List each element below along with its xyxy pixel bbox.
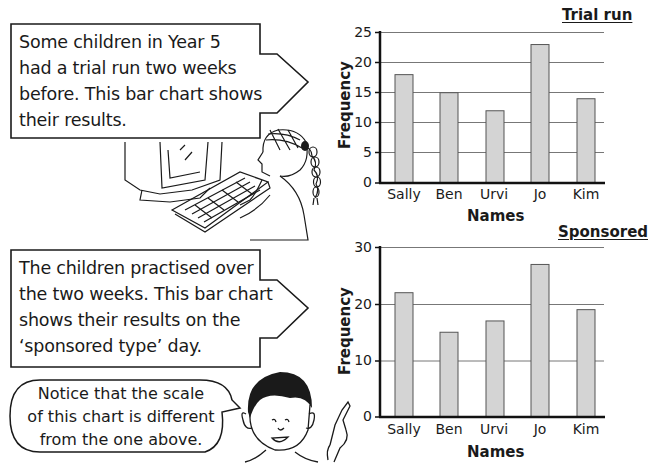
callout-2-line-4: ‘sponsored type’ day. [19, 333, 273, 359]
spons-xlabel-urvi: Urvi [469, 421, 519, 437]
spons-xlabel-ben: Ben [424, 421, 474, 437]
speech-line-1: Notice that the scale [16, 382, 226, 405]
trial-run-bars [395, 45, 595, 183]
callout-1-line-3: before. This bar chart shows [19, 81, 262, 107]
callout-2-line-3: shows their results on the [19, 307, 273, 333]
trial-xlabel-sally: Sally [379, 186, 429, 202]
trial-run-x-axis-label: Names [467, 207, 524, 225]
boy-hair [248, 372, 312, 418]
boy-pointing-illustration [242, 402, 350, 462]
bar-urvi [486, 111, 504, 183]
bar-kim [577, 99, 595, 183]
bar-jo [531, 264, 549, 417]
speech-line-3: from the one above. [16, 428, 226, 451]
trial-ytick-15: 15 [348, 84, 372, 100]
bar-urvi [486, 321, 504, 417]
trial-ytick-25: 25 [348, 24, 372, 40]
spons-ytick-0: 0 [348, 408, 372, 424]
speech-bubble-text: Notice that the scale of this chart is d… [16, 382, 226, 451]
spons-xlabel-sally: Sally [379, 421, 429, 437]
trial-ytick-5: 5 [348, 144, 372, 160]
bar-sally [395, 293, 413, 417]
callout-1-line-4: their results. [19, 107, 262, 133]
spons-ytick-10: 10 [348, 352, 372, 368]
sponsored-y-axis-label: Frequency [336, 276, 354, 386]
callout-2-line-2: the two weeks. This bar chart [19, 281, 273, 307]
sponsored-x-axis-label: Names [467, 443, 524, 461]
spons-xlabel-kim: Kim [561, 421, 611, 437]
trial-ytick-10: 10 [348, 114, 372, 130]
callout-1-line-2: had a trial run two weeks [19, 55, 262, 81]
girl-at-computer-illustration [125, 129, 321, 240]
spons-xlabel-jo: Jo [515, 421, 565, 437]
bar-ben [440, 93, 458, 183]
bar-sally [395, 75, 413, 183]
spons-ytick-20: 20 [348, 296, 372, 312]
spons-ytick-30: 30 [348, 239, 372, 255]
callout-1-text: Some children in Year 5 had a trial run … [19, 29, 262, 133]
bar-jo [531, 45, 549, 183]
trial-xlabel-kim: Kim [561, 186, 611, 202]
trial-ytick-0: 0 [348, 174, 372, 190]
trial-run-title: Trial run [562, 6, 632, 24]
trial-xlabel-urvi: Urvi [469, 186, 519, 202]
hair-ribbon [301, 141, 309, 151]
bar-ben [440, 332, 458, 417]
sponsored-bars [395, 264, 595, 417]
callout-2-text: The children practised over the two week… [19, 255, 273, 359]
trial-ytick-20: 20 [348, 54, 372, 70]
callout-1-line-1: Some children in Year 5 [19, 29, 262, 55]
callout-2-line-1: The children practised over [19, 255, 273, 281]
trial-xlabel-ben: Ben [424, 186, 474, 202]
sponsored-title: Sponsored [558, 223, 648, 241]
trial-xlabel-jo: Jo [515, 186, 565, 202]
bar-kim [577, 310, 595, 417]
speech-line-2: of this chart is different [16, 405, 226, 428]
